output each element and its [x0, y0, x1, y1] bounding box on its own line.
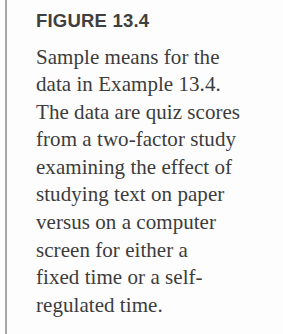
- vertical-rule-divider: [5, 0, 7, 334]
- caption-line: Sample means for the: [36, 44, 280, 72]
- caption-line: data in Example 13.4.: [36, 71, 280, 99]
- figure-caption-block: FIGURE 13.4 Sample means for the data in…: [0, 0, 283, 334]
- figure-title: FIGURE 13.4: [36, 0, 280, 31]
- caption-line: The data are quiz scores: [36, 99, 280, 127]
- caption-line: studying text on paper: [36, 181, 280, 209]
- caption-line: from a two-factor study: [36, 126, 280, 154]
- caption-line: versus on a computer: [36, 209, 280, 237]
- figure-caption-text: Sample means for the data in Example 13.…: [36, 31, 280, 320]
- caption-content: FIGURE 13.4 Sample means for the data in…: [36, 0, 280, 334]
- caption-line: examining the effect of: [36, 154, 280, 182]
- caption-line: screen for either a: [36, 237, 280, 265]
- caption-line: regulated time.: [36, 292, 280, 320]
- caption-line: fixed time or a self-: [36, 264, 280, 292]
